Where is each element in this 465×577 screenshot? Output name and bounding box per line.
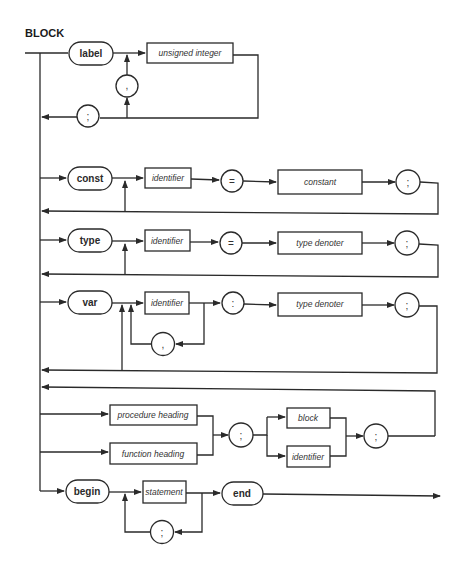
unsigned-integer-text: unsigned integer	[159, 48, 223, 58]
body-section: begin statement end ;	[40, 480, 440, 544]
label-section: label unsigned integer , ;	[42, 42, 258, 127]
label-comma-text: ,	[126, 80, 129, 91]
type-denoter-text: type denoter	[296, 238, 344, 248]
label-keyword-text: label	[80, 48, 103, 59]
var-type-denoter-text: type denoter	[296, 299, 344, 309]
function-heading-text: function heading	[122, 449, 185, 459]
statement-text: statement	[145, 487, 183, 497]
var-colon-text: :	[232, 298, 235, 309]
block-text: block	[298, 413, 319, 423]
const-semicolon-text: ;	[407, 177, 410, 188]
directive-identifier-text: identifier	[292, 452, 325, 462]
const-equals-text: =	[229, 176, 235, 187]
routine-section: procedure heading function heading ; blo…	[40, 387, 435, 467]
var-section: var identifier : type denoter ; ,	[40, 291, 437, 373]
routine-end-semicolon-text: ;	[375, 431, 378, 442]
var-semicolon-text: ;	[406, 300, 409, 311]
constant-text: constant	[304, 177, 337, 187]
procedure-heading-text: procedure heading	[117, 410, 189, 420]
type-keyword-text: type	[80, 235, 101, 246]
var-identifier-text: identifier	[151, 298, 184, 308]
label-semicolon-text: ;	[87, 111, 90, 122]
type-equals-text: =	[228, 238, 234, 249]
end-keyword-text: end	[233, 488, 251, 499]
type-semicolon-text: ;	[406, 238, 409, 249]
const-keyword-text: const	[77, 173, 104, 184]
diagram-title: BLOCK	[25, 27, 64, 39]
const-identifier-text: identifier	[152, 173, 185, 183]
statement-semicolon-text: ;	[161, 527, 164, 538]
var-comma-text: ,	[162, 339, 165, 350]
block-syntax-diagram: BLOCK label unsigned integer , ; const i…	[0, 0, 465, 577]
begin-keyword-text: begin	[74, 486, 101, 497]
type-section: type identifier = type denoter ;	[40, 229, 438, 277]
type-identifier-text: identifier	[151, 236, 184, 246]
var-keyword-text: var	[82, 297, 97, 308]
const-section: const identifier = constant ;	[40, 167, 438, 214]
routine-semicolon-text: ;	[240, 430, 243, 441]
